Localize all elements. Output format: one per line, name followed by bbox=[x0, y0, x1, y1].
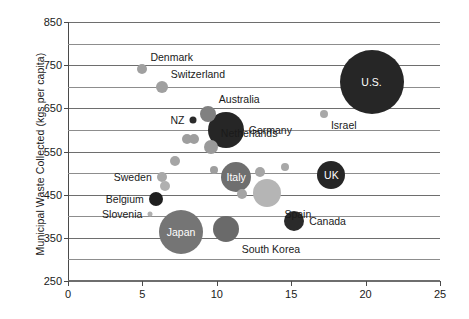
bubble-unlabeled[interactable] bbox=[210, 166, 218, 174]
x-tick-label: 25 bbox=[434, 288, 446, 300]
x-tick-mark bbox=[142, 281, 143, 286]
x-tick-label: 15 bbox=[285, 288, 297, 300]
bubble-uk[interactable] bbox=[317, 161, 345, 189]
bubble-nz[interactable] bbox=[189, 117, 196, 124]
bubble-israel[interactable] bbox=[320, 110, 328, 118]
x-tick-mark bbox=[68, 281, 69, 286]
label-sweden: Sweden bbox=[114, 171, 152, 183]
y-tick-mark bbox=[64, 195, 69, 196]
y-tick-mark bbox=[64, 108, 69, 109]
x-tick-label: 5 bbox=[139, 288, 145, 300]
bubble-switzerland[interactable] bbox=[156, 81, 168, 93]
bubble-denmark[interactable] bbox=[137, 64, 147, 74]
bubble-japan[interactable] bbox=[159, 210, 203, 254]
bubble-belgium[interactable] bbox=[149, 192, 163, 206]
label-netherlands: Netherlands bbox=[221, 127, 278, 139]
label-canada: Canada bbox=[309, 215, 346, 227]
label-denmark: Denmark bbox=[150, 51, 193, 63]
bubble-netherlands[interactable] bbox=[204, 140, 218, 154]
gridline-major bbox=[68, 238, 440, 239]
x-tick-label: 10 bbox=[211, 288, 223, 300]
y-tick-mark bbox=[64, 152, 69, 153]
bubble-south-korea[interactable] bbox=[213, 216, 239, 242]
bubble-unlabeled[interactable] bbox=[160, 181, 170, 191]
bubble-sweden[interactable] bbox=[157, 172, 167, 182]
bubble-unlabeled[interactable] bbox=[281, 163, 289, 171]
label-belgium: Belgium bbox=[106, 193, 144, 205]
x-tick-mark bbox=[291, 281, 292, 286]
y-tick-label: 750 bbox=[44, 59, 62, 71]
bubble-slovenia[interactable] bbox=[147, 212, 152, 217]
label-australia: Australia bbox=[219, 93, 260, 105]
label-nz: NZ bbox=[170, 114, 184, 126]
y-tick-label: 250 bbox=[44, 275, 62, 287]
gridline-major bbox=[68, 22, 440, 23]
x-tick-label: 20 bbox=[359, 288, 371, 300]
gridline-minor bbox=[68, 259, 440, 260]
bubble-spain[interactable] bbox=[253, 179, 281, 207]
x-tick-mark bbox=[366, 281, 367, 286]
y-tick-label: 450 bbox=[44, 189, 62, 201]
label-switzerland: Switzerland bbox=[171, 68, 225, 80]
bubble-unlabeled[interactable] bbox=[237, 189, 247, 199]
y-tick-label: 650 bbox=[44, 102, 62, 114]
y-tick-label: 550 bbox=[44, 146, 62, 158]
y-tick-mark bbox=[64, 238, 69, 239]
y-tick-mark bbox=[64, 65, 69, 66]
bubble-unlabeled[interactable] bbox=[170, 156, 180, 166]
label-south-korea: South Korea bbox=[242, 243, 300, 255]
bubble-italy[interactable] bbox=[221, 162, 251, 192]
label-israel: Israel bbox=[331, 119, 357, 131]
y-tick-label: 850 bbox=[44, 16, 62, 28]
label-spain: Spain bbox=[284, 208, 311, 220]
x-tick-mark bbox=[440, 281, 441, 286]
bubble-unlabeled[interactable] bbox=[189, 134, 199, 144]
bubble-chart: Municipal Waste Collected (kgs per capit… bbox=[0, 0, 469, 319]
plot-area: 2503504505506507508500510152025DenmarkSw… bbox=[68, 22, 440, 281]
y-tick-mark bbox=[64, 22, 69, 23]
gridline-major bbox=[68, 281, 440, 282]
bubble-u-s[interactable] bbox=[340, 50, 404, 114]
bubble-unlabeled[interactable] bbox=[255, 167, 265, 177]
gridline-major bbox=[68, 152, 440, 153]
x-tick-mark bbox=[217, 281, 218, 286]
label-slovenia: Slovenia bbox=[102, 208, 142, 220]
x-tick-label: 0 bbox=[65, 288, 71, 300]
y-tick-label: 350 bbox=[44, 232, 62, 244]
gridline-minor bbox=[68, 44, 440, 45]
bubble-australia[interactable] bbox=[200, 106, 216, 122]
